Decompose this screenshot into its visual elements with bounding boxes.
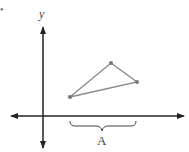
vertex-point (109, 61, 113, 65)
triangle (70, 63, 137, 97)
vertex-point (135, 80, 139, 84)
vertex-point (68, 95, 72, 99)
brace (70, 121, 136, 131)
coordinate-diagram (0, 0, 189, 152)
